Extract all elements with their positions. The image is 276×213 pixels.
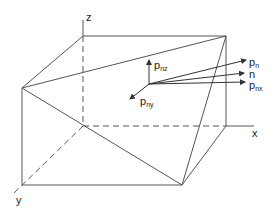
- front-diagonal-edge: [22, 88, 182, 185]
- bottom-right-edge: [182, 126, 226, 185]
- x-axis-label: x: [252, 127, 258, 139]
- pny-label: pny: [140, 95, 154, 109]
- pnz-label: pnz: [154, 59, 168, 72]
- y-axis-label: y: [16, 194, 22, 206]
- diagram-canvas: z x y pn n pnx pnz pny: [0, 0, 276, 213]
- right-diagonal-edge: [182, 36, 226, 185]
- prism-diagram: z x y pn n pnx pnz pny: [0, 0, 276, 213]
- vector-pn-arrow: [149, 60, 246, 84]
- z-axis-label: z: [86, 11, 92, 23]
- pnx-label: pnx: [249, 79, 263, 92]
- stress-vectors: [130, 60, 246, 99]
- prism-edges: [22, 20, 254, 185]
- hidden-axes: [12, 36, 226, 195]
